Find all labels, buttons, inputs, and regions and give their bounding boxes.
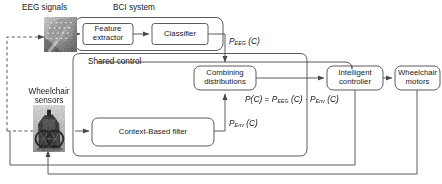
combination-formula: P(C) = PEEG (C) · PEnv (C) xyxy=(245,95,339,105)
p-eeg-label: PEEG (C) xyxy=(229,37,260,47)
eeg-cap-photo xyxy=(44,17,77,52)
intelligent-controller-label: Intelligent controller xyxy=(327,66,383,90)
feature-extractor-label-line2: extractor xyxy=(93,34,123,43)
wheelchair-photo xyxy=(33,105,65,152)
intelligent-controller-label-line2: controller xyxy=(339,78,371,87)
wheelchair-sensors-label-line2: sensors xyxy=(35,96,64,105)
formula-term2-sub: Env xyxy=(316,98,325,104)
feature-extractor-label: Feature extractor xyxy=(83,24,133,45)
arrow-context-filter-to-combining xyxy=(214,94,225,131)
shared-control-label: Shared control xyxy=(88,57,141,66)
context-based-filter-label: Context-Based filter xyxy=(92,118,214,146)
eeg-signals-label: EEG signals xyxy=(22,3,67,12)
bci-system-label: BCI system xyxy=(113,3,155,12)
combining-distributions-label-line2: distributions xyxy=(204,78,246,87)
p-env-arg-text: (C) xyxy=(246,118,258,128)
wheelchair-motors-label-line2: motors xyxy=(406,78,430,87)
wheelchair-sensors-label-line1: Wheelchair xyxy=(29,87,70,96)
p-eeg-sub: EEG xyxy=(235,40,246,46)
formula-term1-sub: EEG xyxy=(277,98,288,104)
p-env-sub: Env xyxy=(235,122,244,128)
context-based-filter-label-line1: Context-Based filter xyxy=(119,128,187,137)
combining-distributions-label: Combining distributions xyxy=(194,66,256,90)
p-env-label: PEnv (C) xyxy=(229,119,258,129)
formula-term2-arg: (C) xyxy=(327,94,339,104)
wheelchair-motors-label: Wheelchair motors xyxy=(395,66,440,90)
classifier-label: Classifier xyxy=(152,24,208,45)
wheelchair-sensors-label: Wheelchair sensors xyxy=(13,86,85,106)
formula-lhs: P(C) xyxy=(245,94,262,104)
p-eeg-arg-text: (C) xyxy=(248,36,260,46)
classifier-label-line1: Classifier xyxy=(164,30,196,39)
arrow-classifier-to-combining xyxy=(208,34,225,62)
diagram-canvas: EEG signals BCI system Feature extractor… xyxy=(0,0,442,184)
formula-term1-arg: (C) xyxy=(291,94,303,104)
